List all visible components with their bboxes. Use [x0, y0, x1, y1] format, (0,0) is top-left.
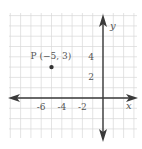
data-point: [49, 65, 53, 69]
y-tick-label: 2: [88, 72, 94, 82]
axes: [8, 14, 138, 142]
points: P (−5, 3): [31, 51, 72, 69]
grid: [9, 13, 137, 138]
x-tick-label: -2: [78, 102, 87, 112]
point-label: P (−5, 3): [31, 51, 72, 61]
x-axis-label: x: [126, 100, 132, 111]
x-tick-label: -6: [37, 102, 46, 112]
y-tick-label: 4: [88, 52, 94, 62]
coordinate-plane: -6-4-242 P (−5, 3) x y: [0, 0, 142, 149]
y-axis-label: y: [109, 20, 116, 31]
x-tick-label: -4: [57, 102, 66, 112]
